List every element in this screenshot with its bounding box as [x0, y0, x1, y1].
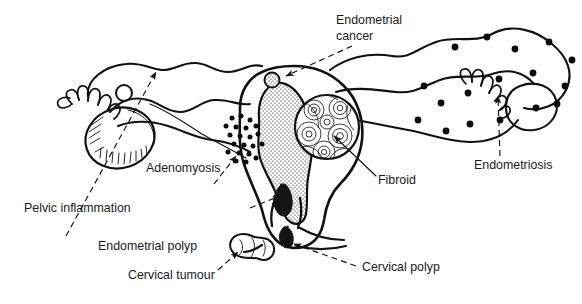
endometriosis-deposit-0 [452, 44, 459, 51]
diagram-root: EndometrialcancerAdenomyosisFibroidEndom… [0, 0, 582, 304]
endometriosis-deposit-3 [546, 39, 553, 46]
endometriosis-deposit-13 [467, 121, 474, 128]
label-endometriosis: Endometriosis [474, 158, 553, 172]
label-fibroid: Fibroid [378, 173, 416, 187]
endometriosis-deposit-4 [569, 57, 576, 64]
anatomical-diagram: EndometrialcancerAdenomyosisFibroidEndom… [0, 0, 582, 304]
label-adenomyosis-line1: Adenomyosis [146, 161, 220, 175]
adenomyosis-focus-16 [247, 152, 252, 157]
label-cervical-tumour-line1: Cervical tumour [128, 268, 215, 282]
adenomyosis-focus-10 [256, 132, 261, 137]
adenomyosis-focus-11 [232, 142, 237, 147]
adenomyosis-focus-7 [228, 133, 233, 138]
adenomyosis-focus-0 [230, 116, 235, 121]
endometriosis-deposit-2 [512, 46, 519, 53]
adenomyosis-focus-18 [244, 160, 249, 165]
endometriosis-deposit-14 [443, 128, 450, 135]
endometriosis-deposit-11 [533, 105, 540, 112]
adenomyosis-focus-15 [237, 151, 242, 156]
adenomyosis-focus-8 [238, 134, 243, 139]
label-cervical-tumour: Cervical tumour [128, 268, 215, 282]
adenomyosis-focus-3 [224, 124, 229, 129]
label-cervical-polyp-line1: Cervical polyp [362, 260, 440, 274]
endometriosis-deposit-1 [484, 34, 491, 41]
label-endometrial-polyp: Endometrial polyp [98, 239, 197, 253]
endometriosis-deposit-5 [562, 83, 569, 90]
adenomyosis-focus-14 [226, 150, 231, 155]
label-endometrial-cancer-line1: Endometrial [336, 13, 402, 27]
adenomyosis-focus-19 [254, 156, 259, 161]
adenomyosis-focus-6 [254, 124, 259, 129]
label-endometrial-cancer-line2: cancer [336, 29, 373, 43]
label-pelvic-inflammation: Pelvic inflammation [24, 201, 131, 215]
adenomyosis-focus-17 [234, 159, 239, 164]
adenomyosis-focus-1 [239, 114, 244, 119]
adenomyosis-focus-9 [248, 135, 253, 140]
endometriosis-deposit-16 [554, 101, 561, 108]
label-endometrial-polyp-line1: Endometrial polyp [98, 239, 197, 253]
endometriosis-deposit-9 [438, 100, 445, 107]
adenomyosis-focus-2 [248, 118, 253, 123]
endometriosis-deposit-15 [415, 117, 422, 124]
label-cervical-polyp: Cervical polyp [362, 260, 440, 274]
endometriosis-deposit-8 [465, 90, 472, 97]
adenomyosis-focus-5 [244, 126, 249, 131]
label-endometriosis-line1: Endometriosis [474, 158, 553, 172]
endometriosis-deposit-7 [496, 76, 503, 83]
endometriosis-deposit-10 [421, 83, 428, 90]
adenomyosis-focus-13 [251, 144, 256, 149]
endometrial-cancer-nodule [265, 73, 280, 88]
label-fibroid-line1: Fibroid [378, 173, 416, 187]
label-pelvic-inflammation-line1: Pelvic inflammation [24, 201, 131, 215]
adenomyosis-focus-4 [234, 125, 239, 130]
endometriosis-deposit-12 [497, 117, 504, 124]
label-adenomyosis: Adenomyosis [146, 161, 220, 175]
endometriosis-deposit-6 [530, 70, 537, 77]
adenomyosis-focus-20 [260, 142, 265, 147]
adenomyosis-focus-12 [242, 143, 247, 148]
